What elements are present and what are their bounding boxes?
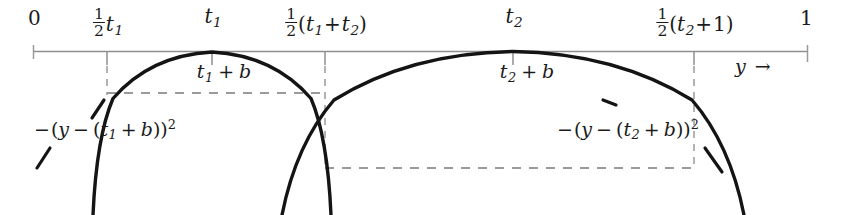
exponent-2: 2 [691, 117, 699, 132]
minus-sign: − [556, 118, 574, 140]
fraction-one-half: 1 2 [285, 6, 297, 39]
variable-t: t [677, 12, 685, 36]
minus-operator: − [69, 118, 93, 140]
subscript-1: 1 [314, 22, 323, 38]
frac-denominator: 2 [656, 23, 668, 39]
formula-label-parabola-1: −(y−(t1+b))2 [33, 119, 176, 142]
variable-t: t [106, 12, 114, 36]
plus-operator: + [516, 60, 542, 82]
variable-b: b [239, 60, 251, 82]
variable-y: y [581, 118, 592, 140]
frac-numerator: 1 [656, 6, 668, 23]
formula-label-parabola-2: −(y−(t2+b))2 [556, 119, 699, 142]
plus-operator: + [640, 118, 664, 140]
variable-t: t [342, 12, 350, 36]
paren-close: ) [726, 12, 734, 36]
subscript-2: 2 [350, 22, 359, 38]
peak-label-parabola-2: t2+b [500, 62, 554, 85]
number-one: 1 [713, 12, 726, 36]
axis-tick-label-one: 1 [800, 8, 813, 28]
paren-open: ( [298, 12, 306, 36]
plus-operator: + [213, 60, 239, 82]
variable-t: t [623, 118, 631, 140]
subscript-1: 1 [213, 14, 222, 30]
exponent-2: 2 [168, 117, 176, 132]
axis-tick-label-zero: 0 [28, 8, 41, 28]
subscript-1: 1 [109, 127, 117, 142]
formula-2-leader-mark-lower [705, 148, 722, 172]
paren-close: ) [359, 12, 367, 36]
variable-t: t [306, 12, 314, 36]
math-figure: 0 1 2 t1 t1 1 2 (t1+t2) t2 1 2 (t2+1) 1 … [0, 0, 842, 215]
variable-t: t [505, 4, 513, 28]
variable-y: y [58, 118, 69, 140]
subscript-2: 2 [514, 14, 523, 30]
minus-operator: − [592, 118, 616, 140]
frac-denominator: 2 [285, 23, 297, 39]
plus-operator: + [117, 118, 141, 140]
right-arrow-icon: → [755, 55, 771, 77]
fraction-one-half: 1 2 [93, 6, 105, 39]
minus-sign: − [33, 118, 51, 140]
frac-numerator: 1 [93, 6, 105, 23]
subscript-2: 2 [632, 127, 640, 142]
axis-tick-label-t1: t1 [204, 6, 221, 29]
variable-y: y [735, 55, 746, 77]
formula-1-leader-mark-upper [92, 100, 104, 118]
variable-t: t [500, 60, 508, 82]
axis-tick-label-half-t1: 1 2 t1 [93, 6, 123, 39]
formula-1-leader-mark [37, 148, 50, 168]
variable-b: b [664, 118, 676, 140]
fraction-one-half: 1 2 [656, 6, 668, 39]
variable-t: t [204, 4, 212, 28]
plus-operator: + [323, 12, 342, 36]
paren-close-outer: ) [160, 118, 167, 140]
formula-2-leader-mark [603, 100, 616, 105]
zero-text: 0 [28, 6, 41, 30]
subscript-2: 2 [686, 22, 695, 38]
one-text: 1 [800, 6, 813, 30]
axis-tick-label-half-t2-plus-1: 1 2 (t2+1) [656, 6, 733, 39]
frac-numerator: 1 [285, 6, 297, 23]
axis-variable-label: y→ [735, 57, 771, 76]
peak-label-parabola-1: t1+b [197, 62, 251, 85]
subscript-1: 1 [114, 22, 123, 38]
frac-denominator: 2 [93, 23, 105, 39]
variable-b: b [542, 60, 554, 82]
paren-close-outer: ) [683, 118, 690, 140]
variable-b: b [141, 118, 153, 140]
plus-operator: + [694, 12, 713, 36]
axis-tick-label-t2: t2 [505, 6, 522, 29]
paren-open: ( [669, 12, 677, 36]
variable-t: t [197, 60, 205, 82]
variable-t: t [100, 118, 108, 140]
axis-tick-label-half-t1-plus-t2: 1 2 (t1+t2) [285, 6, 367, 39]
